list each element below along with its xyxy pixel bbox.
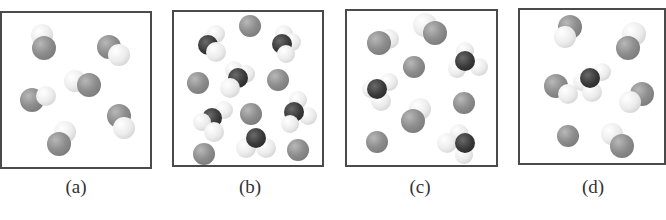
white-atom-sphere <box>554 26 576 48</box>
gray-atom-sphere <box>366 131 388 153</box>
gray-atom-sphere <box>453 92 475 114</box>
white-atom-sphere <box>558 84 578 104</box>
panel-a-label: (a) <box>46 176 106 198</box>
gray-atom-sphere <box>193 143 215 165</box>
panel-c-box <box>345 9 498 167</box>
gray-atom-sphere <box>287 139 309 161</box>
panel-a-box <box>0 11 152 169</box>
dark-atom-sphere <box>580 68 600 88</box>
gray-atom-sphere <box>32 36 56 60</box>
white-atom-sphere <box>206 42 226 62</box>
gray-atom-sphere <box>610 134 634 158</box>
gray-atom-sphere <box>403 56 425 78</box>
gray-atom-sphere <box>239 15 261 37</box>
gray-atom-sphere <box>401 109 425 133</box>
panel-b-label: (b) <box>220 176 280 198</box>
gray-atom-sphere <box>267 69 289 91</box>
white-atom-sphere <box>113 117 135 139</box>
gray-atom-sphere <box>616 36 640 60</box>
white-atom-sphere <box>281 115 299 133</box>
white-atom-sphere <box>437 133 457 153</box>
panel-d-box <box>518 8 666 165</box>
white-atom-sphere <box>108 44 130 66</box>
gray-atom-sphere <box>187 72 209 94</box>
white-atom-sphere <box>277 45 295 63</box>
gray-atom-sphere <box>367 31 391 55</box>
gray-atom-sphere <box>557 125 579 147</box>
gray-atom-sphere <box>77 73 101 97</box>
white-atom-sphere <box>204 122 224 142</box>
gray-atom-sphere <box>423 21 447 45</box>
panel-d-label: (d) <box>563 176 623 198</box>
panel-b-box <box>172 10 324 167</box>
panel-c-label: (c) <box>390 176 450 198</box>
dark-atom-sphere <box>367 79 387 99</box>
dark-atom-sphere <box>455 51 475 71</box>
dark-atom-sphere <box>455 133 475 153</box>
gray-atom-sphere <box>240 103 262 125</box>
white-atom-sphere <box>619 91 641 113</box>
dark-atom-sphere <box>246 128 266 148</box>
white-atom-sphere <box>220 78 240 98</box>
gray-atom-sphere <box>47 132 71 156</box>
white-atom-sphere <box>36 86 56 106</box>
